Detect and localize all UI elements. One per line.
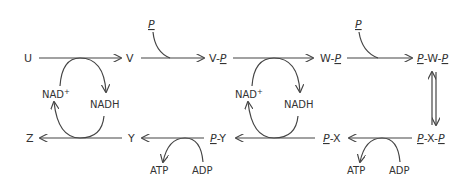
- pathway-diagram: U V V-P W-P P-W-P P P NAD+ NADH NAD+ NAD…: [0, 0, 465, 191]
- node-p-x-p: P-X-P: [417, 132, 445, 145]
- adp-2: ADP: [389, 165, 410, 176]
- node-y: Y: [127, 132, 135, 145]
- node-v: V: [126, 52, 134, 65]
- atp-1: ATP: [150, 165, 168, 176]
- phosphate-curve-2: [359, 32, 378, 58]
- node-w-p: W-P: [320, 52, 341, 65]
- nadh-2: NADH: [284, 99, 314, 110]
- phosphate-input-2: P: [355, 18, 362, 31]
- node-p-w-p: P-W-P: [417, 52, 449, 65]
- node-p-y: P-Y: [210, 132, 226, 145]
- phosphate-curve-1: [153, 32, 170, 58]
- atp-2: ATP: [347, 165, 365, 176]
- atp-curve-2: [360, 138, 400, 162]
- nad-cycle-1-top: [60, 58, 106, 92]
- nad-plus-1: NAD+: [42, 88, 70, 100]
- nad-plus-2: NAD+: [235, 88, 263, 100]
- node-u: U: [24, 52, 32, 65]
- node-z: Z: [26, 132, 34, 145]
- nadh-1: NADH: [90, 99, 120, 110]
- node-p-x: P-X: [323, 132, 341, 145]
- nad-cycle-2-top: [252, 58, 300, 92]
- adp-1: ADP: [192, 165, 213, 176]
- phosphate-input-1: P: [148, 18, 155, 31]
- node-v-p: V-P: [209, 52, 227, 65]
- atp-curve-1: [163, 138, 203, 162]
